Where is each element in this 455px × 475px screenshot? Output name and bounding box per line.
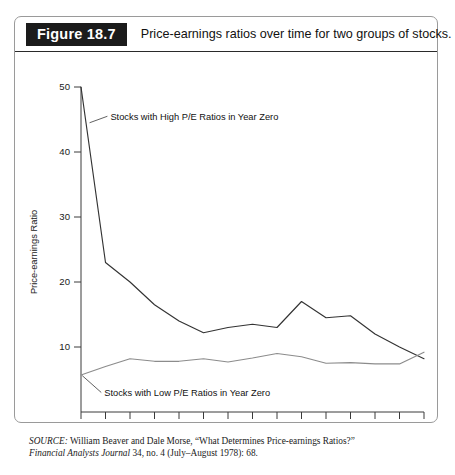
x-tick-label: 9	[299, 422, 304, 423]
x-tick-label: 13	[394, 422, 405, 423]
x-tick-label: 6	[225, 422, 230, 423]
annotation-label: Stocks with Low P/E Ratios in Year Zero	[104, 388, 270, 398]
chart-plot-area: 1020304050 01234567891011121314 Stocks w…	[15, 52, 437, 423]
y-axis-ticks: 1020304050	[59, 81, 81, 352]
annotation-label: Stocks with High P/E Ratios in Year Zero	[110, 112, 278, 122]
line-chart-svg: 1020304050 01234567891011121314 Stocks w…	[15, 52, 437, 423]
x-axis-ticks: 01234567891011121314	[78, 412, 430, 423]
y-tick-label: 50	[59, 81, 70, 92]
source-journal: Financial Analysts Journal	[29, 448, 130, 458]
x-tick-label: 7	[250, 422, 255, 423]
source-label: SOURCE:	[29, 436, 68, 446]
x-tick-label: 3	[152, 422, 157, 423]
x-tick-label: 2	[127, 422, 132, 423]
figure-card: Figure 18.7 Price-earnings ratios over t…	[14, 16, 438, 423]
source-authors-title: William Beaver and Dale Morse, “What Det…	[68, 436, 355, 446]
y-tick-label: 40	[59, 146, 70, 157]
x-tick-label: 0	[78, 422, 83, 423]
figure-header: Figure 18.7 Price-earnings ratios over t…	[15, 17, 437, 51]
series-line	[81, 352, 424, 375]
x-tick-label: 10	[321, 422, 332, 423]
annotation-leader-line	[90, 116, 108, 123]
x-tick-label: 8	[274, 422, 279, 423]
x-tick-label: 12	[370, 422, 381, 423]
figure-caption: Price-earnings ratios over time for two …	[141, 27, 452, 41]
y-tick-label: 20	[59, 276, 70, 287]
y-axis-title: Price-earnings Ratio	[29, 210, 39, 294]
x-tick-label: 11	[346, 422, 356, 423]
source-note: SOURCE: William Beaver and Dale Morse, “…	[29, 436, 429, 459]
annotation-leader-line	[82, 376, 101, 393]
source-citation: 34, no. 4 (July–August 1978): 68.	[130, 448, 258, 458]
x-tick-label: 4	[176, 422, 182, 423]
series-line	[81, 87, 424, 359]
y-tick-label: 10	[59, 341, 70, 352]
x-tick-label: 5	[201, 422, 206, 423]
y-tick-label: 30	[59, 211, 70, 222]
x-tick-label: 14	[419, 422, 430, 423]
figure-number-badge: Figure 18.7	[26, 23, 127, 46]
chart-series-lines	[81, 87, 424, 375]
chart-annotations: Stocks with High P/E Ratios in Year Zero…	[82, 112, 278, 398]
x-tick-label: 1	[103, 422, 108, 423]
